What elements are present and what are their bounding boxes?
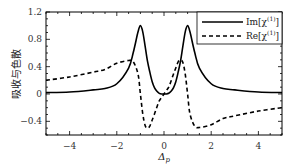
x-tick-label: 4 — [256, 141, 262, 151]
x-tick-label: 2 — [208, 141, 214, 151]
x-tick-labels: −4−2024 — [63, 141, 262, 151]
x-tick-label: −4 — [63, 141, 77, 151]
y-axis-label: 吸收与色散 — [10, 49, 22, 99]
y-tick-label: 1.2 — [28, 7, 42, 17]
legend: Im[χ(1)] Re[χ(1)] — [197, 12, 282, 44]
y-tick-label: −0.4 — [20, 116, 42, 126]
x-tick-label: −2 — [110, 141, 123, 151]
y-tick-labels: −0.400.40.81.2 — [20, 7, 42, 126]
y-tick-label: 0.8 — [28, 34, 43, 44]
x-tick-label: 0 — [161, 141, 167, 151]
re-chi-curve — [46, 60, 282, 128]
y-tick-label: 0.4 — [28, 62, 43, 72]
x-axis-label: Δp — [157, 151, 170, 164]
y-tick-label: 0 — [36, 89, 42, 99]
chart: −0.400.40.81.2 −4−2024 吸收与色散 Δp Im[χ(1)]… — [0, 0, 285, 167]
